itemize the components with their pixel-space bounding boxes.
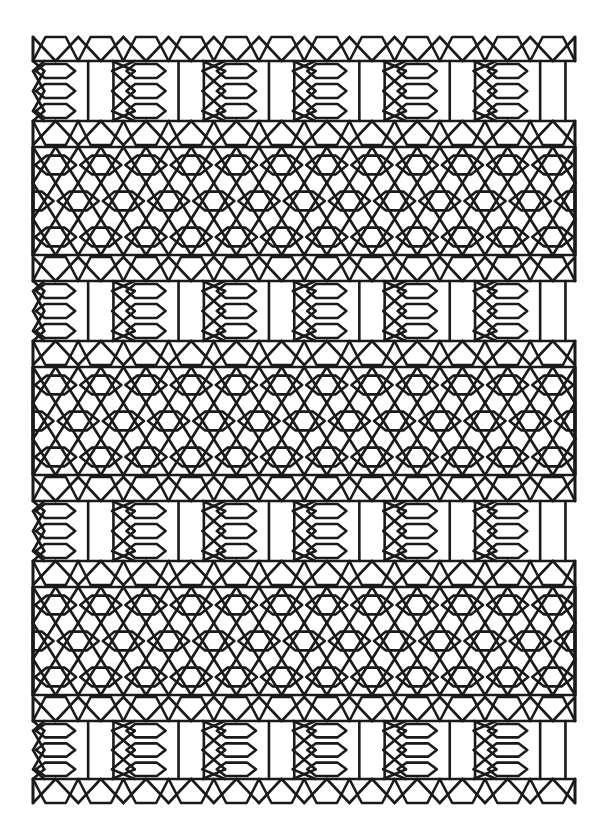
hexagon-lattice-artwork: Interlocking Hexagon Lattice Pattern	[0, 0, 607, 840]
